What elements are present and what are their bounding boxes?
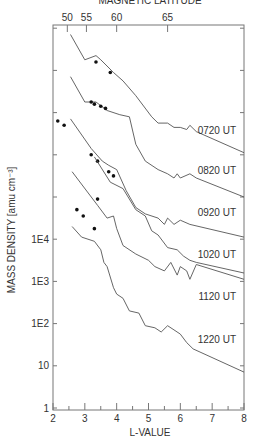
curve-1020-ut: 1020 UT	[72, 172, 244, 280]
top-tick-label: 55	[81, 12, 93, 23]
x-axis-title: L-VALUE	[130, 427, 171, 438]
y-tick-label: 1E4	[31, 234, 49, 245]
curve-label: 0820 UT	[198, 165, 236, 176]
curve-0720-ut: 0720 UT	[71, 35, 245, 153]
measurement-dot	[89, 100, 93, 104]
y-tick-label: 1	[43, 403, 49, 414]
density-profile-line	[72, 172, 244, 280]
curve-label: 0920 UT	[198, 207, 236, 218]
measurement-dot	[75, 208, 79, 212]
top-axis-title: MAGNETIC LATITUDE	[98, 0, 201, 6]
x-tick-label: 8	[241, 413, 247, 424]
density-curves: 0720 UT0820 UT0920 UT1020 UT1120 UT1220 …	[56, 35, 244, 373]
density-profile-line	[71, 77, 245, 197]
curve-label: 1120 UT	[198, 291, 236, 302]
y-tick-label: 1E2	[31, 318, 49, 329]
measurement-dot	[109, 71, 113, 75]
curve-0920-ut: 0920 UT	[56, 119, 244, 237]
y-axis-title: MASS DENSITY [amu cm⁻³]	[6, 167, 17, 294]
x-tick-label: 5	[146, 413, 152, 424]
curve-label: 0720 UT	[198, 125, 236, 136]
mass-density-chart: MAGNETIC LATITUDE 50556065 1101E21E31E4 …	[0, 0, 258, 442]
top-tick-label: 50	[62, 12, 74, 23]
curve-label: 1220 UT	[198, 334, 236, 345]
measurement-dot	[81, 214, 85, 218]
measurement-dot	[112, 174, 116, 178]
measurement-dot	[107, 170, 111, 174]
x-axis-ticks: 2345678	[50, 403, 247, 424]
measurement-dot	[89, 153, 93, 157]
measurement-dot	[93, 102, 97, 106]
x-tick-label: 2	[50, 413, 56, 424]
x-tick-label: 6	[178, 413, 184, 424]
y-tick-label: 10	[38, 360, 50, 371]
x-tick-label: 3	[82, 413, 88, 424]
curve-0820-ut: 0820 UT	[71, 77, 245, 197]
density-profile-line	[71, 119, 245, 237]
measurement-dot	[94, 60, 98, 64]
x-tick-label: 4	[114, 413, 120, 424]
measurement-dot	[96, 197, 100, 201]
measurement-dot	[62, 123, 66, 127]
measurement-dot	[93, 227, 97, 231]
top-tick-label: 65	[162, 12, 174, 23]
x-tick-label: 7	[209, 413, 215, 424]
y-axis-ticks: 1101E21E31E4	[31, 28, 244, 413]
curve-label: 1020 UT	[198, 249, 236, 260]
y-tick-label: 1E3	[31, 276, 49, 287]
measurement-dot	[104, 107, 108, 111]
top-axis-ticks: 50556065	[62, 12, 174, 32]
top-tick-label: 60	[111, 12, 123, 23]
measurement-dot	[56, 119, 60, 123]
measurement-dot	[99, 104, 103, 108]
